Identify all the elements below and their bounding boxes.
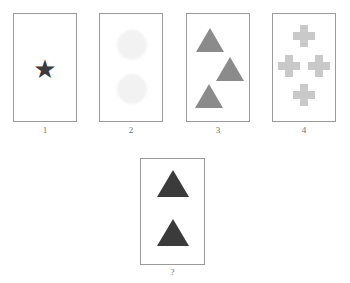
option-label-3: 3 xyxy=(186,124,250,136)
answer-card-face xyxy=(141,159,204,264)
triangle-icon xyxy=(216,57,244,81)
triangle-icon xyxy=(196,28,224,52)
faint-circle-icon xyxy=(117,74,147,104)
card-4-face xyxy=(273,14,335,121)
answer-card-label: ? xyxy=(140,266,205,278)
option-label-1: 1 xyxy=(13,124,77,136)
option-label-4: 4 xyxy=(272,124,336,136)
option-card-4[interactable] xyxy=(272,13,336,122)
option-label-2: 2 xyxy=(99,124,163,136)
cross-icon xyxy=(278,55,300,77)
puzzle-container: ★ 1 2 3 4 ? xyxy=(0,0,350,283)
option-card-1[interactable]: ★ xyxy=(13,13,77,122)
triangle-icon xyxy=(157,170,189,197)
answer-card[interactable] xyxy=(140,158,205,265)
option-card-2[interactable] xyxy=(99,13,163,122)
star-icon: ★ xyxy=(14,56,76,82)
cross-icon xyxy=(293,25,315,47)
card-3-face xyxy=(187,14,249,121)
option-card-3[interactable] xyxy=(186,13,250,122)
card-1-face: ★ xyxy=(14,14,76,121)
faint-circle-icon xyxy=(117,30,147,60)
triangle-icon xyxy=(195,84,223,108)
cross-icon xyxy=(293,84,315,106)
cross-icon xyxy=(308,55,330,77)
card-2-face xyxy=(100,14,162,121)
triangle-icon xyxy=(157,219,189,246)
